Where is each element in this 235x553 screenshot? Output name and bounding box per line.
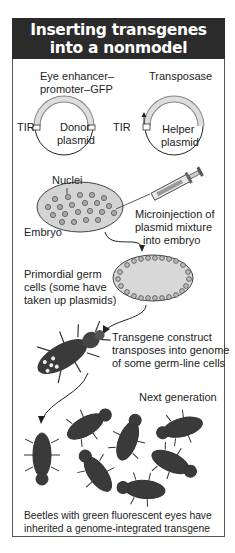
injection-label-2: plasmid mixture <box>135 221 212 234</box>
germ-label-1: Primordial germ <box>24 268 102 281</box>
caption-line-2: inherited a genome-integrated transgene <box>24 522 210 535</box>
caption-line-1: Beetles with green fluorescent eyes have <box>24 509 212 522</box>
donor-name-2: plasmid <box>57 134 95 147</box>
syringe-icon <box>116 166 204 209</box>
germ-cell-embryo-icon <box>113 255 193 301</box>
helper-construct-label: Transposase <box>149 70 212 83</box>
donor-construct-label-2: promoter–GFP <box>40 83 113 96</box>
germ-label-2: cells (some have <box>24 281 107 294</box>
donor-name-1: Donor <box>60 121 90 134</box>
germ-label-3: taken up plasmids) <box>24 294 116 307</box>
offspring-beetles-icon <box>24 397 207 508</box>
helper-name-2: plasmid <box>161 136 199 149</box>
injection-label-1: Microinjection of <box>135 208 214 221</box>
tir-left-label: TIR <box>17 121 35 134</box>
embryo-icon <box>37 182 123 232</box>
helper-name-1: Helper <box>162 123 194 136</box>
donor-construct-label-1: Eye enhancer– <box>40 70 114 83</box>
transpose-label-3: of some germ-line cells <box>112 357 225 370</box>
tir-right-label: TIR <box>113 121 131 134</box>
nuclei-label: Nuclei <box>52 174 83 187</box>
injection-label-3: into embryo <box>143 234 200 247</box>
parent-beetle-icon <box>27 312 118 391</box>
transpose-label-1: Transgene construct <box>112 331 212 344</box>
embryo-label: Embryo <box>24 226 62 239</box>
next-generation-label: Next generation <box>139 391 217 404</box>
transpose-label-2: transposes into genome <box>112 344 229 357</box>
